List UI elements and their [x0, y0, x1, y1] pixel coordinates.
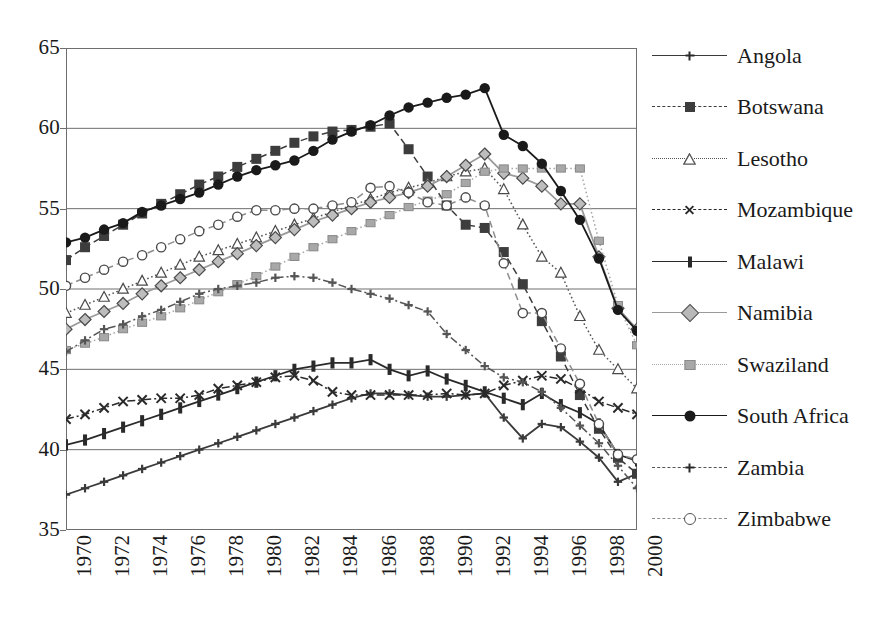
x-axis-tick-label: 1976	[188, 535, 209, 577]
legend-marker-diamond-icon	[680, 304, 698, 322]
legend-key-swatch	[652, 148, 727, 170]
x-axis-tick-label: 1974	[150, 535, 171, 577]
legend-item-swaziland[interactable]: Swaziland	[652, 339, 883, 391]
legend-marker-plus-icon	[685, 463, 694, 472]
legend-key-swatch	[652, 45, 727, 67]
legend-marker-x-icon	[684, 205, 695, 216]
legend-item-label: Malawi	[737, 251, 804, 273]
x-axis-tick-label: 1972	[112, 535, 133, 577]
legend-item-label: Mozambique	[737, 199, 853, 221]
legend-item-namibia[interactable]: Namibia	[652, 288, 883, 340]
legend-item-south-africa[interactable]: South Africa	[652, 391, 883, 443]
legend-key-swatch	[652, 508, 727, 530]
x-axis-tick-label: 1984	[340, 535, 361, 577]
x-axis-tick-label: 1970	[74, 535, 95, 577]
legend-marker-plus-icon	[685, 51, 694, 60]
legend-item-zambia[interactable]: Zambia	[652, 442, 883, 494]
legend-key-swatch	[652, 251, 727, 273]
legend-item-label: Angola	[737, 45, 802, 67]
legend-item-label: Namibia	[737, 302, 813, 324]
legend-key-swatch	[652, 457, 727, 479]
legend-item-mozambique[interactable]: Mozambique	[652, 185, 883, 237]
legend-key-swatch	[652, 405, 727, 427]
legend-item-botswana[interactable]: Botswana	[652, 82, 883, 134]
legend-marker-filled-square-icon	[685, 102, 695, 112]
legend-key-swatch	[652, 354, 727, 376]
x-axis-tick-label: 1996	[569, 535, 590, 577]
x-axis-tick-label: 1986	[379, 535, 400, 577]
legend-item-angola[interactable]: Angola	[652, 30, 883, 82]
legend-marker-gray-square-icon	[684, 360, 695, 370]
x-axis-tick-label: 1998	[607, 535, 628, 577]
legend-item-malawi[interactable]: Malawi	[652, 236, 883, 288]
legend-item-label: Zambia	[737, 457, 804, 479]
legend-marker-vbar-icon	[688, 256, 692, 267]
legend-key-swatch	[652, 199, 727, 221]
x-axis-tick-label: 1994	[531, 535, 552, 577]
legend-item-label: South Africa	[737, 405, 849, 427]
legend-marker-open-circle-icon	[684, 513, 696, 525]
legend-item-label: Botswana	[737, 96, 824, 118]
chart-page: 35404550556065 1970197219741976197819801…	[0, 0, 883, 621]
x-axis-tick-label: 1990	[455, 535, 476, 577]
legend-key-swatch	[652, 302, 727, 324]
legend-item-label: Zimbabwe	[737, 508, 831, 530]
x-axis-tick-label: 1978	[226, 535, 247, 577]
legend-key-swatch	[652, 96, 727, 118]
x-axis-tick-label: 1992	[493, 535, 514, 577]
legend-item-label: Lesotho	[737, 148, 808, 170]
legend-item-label: Swaziland	[737, 354, 829, 376]
x-axis-tick-label: 1980	[264, 535, 285, 577]
x-axis-tick-label: 1988	[417, 535, 438, 577]
x-axis-tick-label: 1982	[302, 535, 323, 577]
legend-marker-filled-circle-icon	[684, 411, 695, 422]
legend-item-zimbabwe[interactable]: Zimbabwe	[652, 494, 883, 546]
legend-item-lesotho[interactable]: Lesotho	[652, 133, 883, 185]
legend-marker-open-triangle-icon	[684, 154, 696, 164]
legend: AngolaBotswanaLesothoMozambiqueMalawiNam…	[652, 30, 883, 545]
